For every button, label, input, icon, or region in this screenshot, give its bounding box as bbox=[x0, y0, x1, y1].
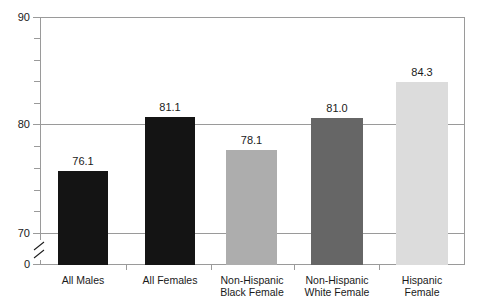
bar-all-males bbox=[58, 171, 108, 265]
y-axis-label-90: 90 bbox=[4, 12, 30, 23]
x-tick-3 bbox=[294, 265, 295, 270]
y-axis-label-70: 70 bbox=[4, 228, 30, 239]
x-tick-2 bbox=[211, 265, 212, 270]
y-tick-minor-72 bbox=[34, 211, 40, 212]
bar-non-hispanic-white-female bbox=[311, 118, 363, 265]
y-axis-label-80: 80 bbox=[4, 119, 30, 130]
y-tick-minor-86 bbox=[34, 60, 40, 61]
y-tick-80 bbox=[33, 124, 40, 125]
x-axis-label-all-females: All Females bbox=[130, 274, 210, 286]
x-axis-label-non-hispanic-black-female: Non-Hispanic Black Female bbox=[212, 274, 292, 298]
bar-value-hispanic-female: 84.3 bbox=[396, 67, 448, 78]
y-tick-minor-76 bbox=[34, 168, 40, 169]
y-tick-0 bbox=[33, 264, 40, 265]
y-tick-minor-88 bbox=[34, 38, 40, 39]
bar-value-all-females: 81.1 bbox=[145, 102, 195, 113]
bar-all-females bbox=[145, 117, 195, 265]
y-tick-minor-74 bbox=[34, 190, 40, 191]
bar-chart: 90 80 70 0 76.1 81.1 78.1 81.0 84.3 All … bbox=[0, 0, 491, 307]
x-axis-label-hispanic-female: Hispanic Female bbox=[382, 274, 462, 298]
y-tick-70 bbox=[33, 233, 40, 234]
x-tick-1 bbox=[126, 265, 127, 270]
y-tick-minor-82 bbox=[34, 103, 40, 104]
x-tick-4 bbox=[379, 265, 380, 270]
y-tick-minor-78 bbox=[34, 146, 40, 147]
y-tick-minor-84 bbox=[34, 81, 40, 82]
axis-break-icon bbox=[31, 240, 49, 260]
x-axis-label-non-hispanic-white-female: Non-Hispanic White Female bbox=[297, 274, 377, 298]
y-tick-90 bbox=[33, 17, 40, 18]
bar-non-hispanic-black-female bbox=[226, 150, 277, 265]
bar-hispanic-female bbox=[396, 82, 448, 265]
bar-value-non-hispanic-white-female: 81.0 bbox=[311, 103, 363, 114]
bar-value-non-hispanic-black-female: 78.1 bbox=[226, 135, 277, 146]
bar-value-all-males: 76.1 bbox=[58, 156, 108, 167]
x-axis-label-all-males: All Males bbox=[43, 274, 123, 286]
y-axis-line bbox=[40, 17, 41, 265]
y-axis-label-0: 0 bbox=[4, 259, 30, 270]
